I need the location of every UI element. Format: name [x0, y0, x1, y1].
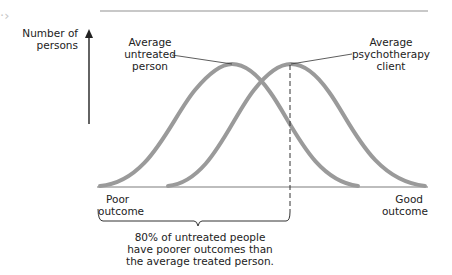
- brace-annotation-line1: 80% of untreated people: [120, 231, 280, 243]
- treated-label-line2: psychotherapy: [348, 48, 434, 60]
- x-axis-left-label: Poor outcome: [98, 193, 158, 217]
- treated-label-line3: client: [348, 60, 434, 72]
- x-axis-right-label: Good outcome: [368, 193, 428, 217]
- brace-annotation-line2: have poorer outcomes than: [120, 243, 280, 255]
- untreated-label-line2: untreated: [121, 48, 179, 60]
- y-axis-arrowhead-icon: [85, 29, 93, 38]
- brace-annotation-line3: the average treated person.: [120, 255, 280, 267]
- untreated-label: Average untreated person: [121, 36, 179, 72]
- y-axis-label-line2: persons: [22, 39, 78, 51]
- treated-label: Average psychotherapy client: [348, 36, 434, 72]
- treated-curve: [168, 64, 425, 186]
- untreated-leader-line: [172, 55, 232, 64]
- x-right-label-line1: Good: [368, 193, 428, 205]
- y-axis-label: Number of persons: [22, 27, 78, 51]
- treated-label-line1: Average: [348, 36, 434, 48]
- x-left-label-line2: outcome: [98, 205, 158, 217]
- x-left-label-line1: Poor: [98, 193, 158, 205]
- untreated-label-line3: person: [121, 60, 179, 72]
- brace-annotation: 80% of untreated people have poorer outc…: [120, 231, 280, 267]
- untreated-label-line1: Average: [121, 36, 179, 48]
- y-axis-label-line1: Number of: [22, 27, 78, 39]
- x-right-label-line2: outcome: [368, 205, 428, 217]
- treated-leader-line: [291, 54, 352, 64]
